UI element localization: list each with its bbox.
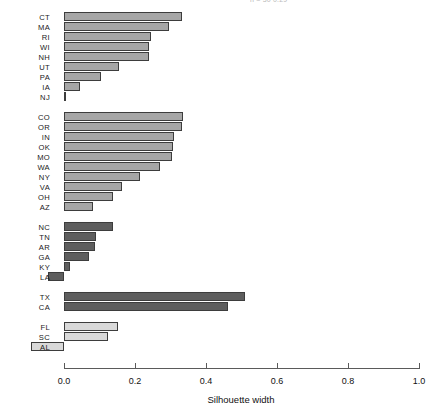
row-label-pa: PA xyxy=(0,73,50,82)
row-label-co: CO xyxy=(0,113,50,122)
row-label-or: OR xyxy=(0,123,50,132)
row-label-az: AZ xyxy=(0,203,50,212)
row-label-ri: RI xyxy=(0,33,50,42)
bar-wa xyxy=(64,162,160,171)
bar-ia xyxy=(64,82,80,91)
row-label-ky: KY xyxy=(0,263,50,272)
x-tick-0.4 xyxy=(206,363,207,369)
row-label-al: AL xyxy=(0,343,50,352)
bar-ky xyxy=(64,262,70,271)
bar-in xyxy=(64,132,174,141)
bar-ma xyxy=(64,22,169,31)
x-axis-title-text: Silhouette width xyxy=(155,394,274,405)
bar-co xyxy=(64,112,183,121)
bar-oh xyxy=(64,192,113,201)
bar-nj xyxy=(64,92,66,101)
row-label-in: IN xyxy=(0,133,50,142)
bar-ri xyxy=(64,32,151,41)
row-label-ny: NY xyxy=(0,173,50,182)
clipped-title: n = 30 0.29 xyxy=(250,0,430,5)
bar-ar xyxy=(64,242,95,251)
row-label-ok: OK xyxy=(0,143,50,152)
bar-fl xyxy=(64,322,118,331)
bar-ct xyxy=(64,12,182,21)
row-label-tn: TN xyxy=(0,233,50,242)
x-tick-0.2 xyxy=(135,363,136,369)
bar-az xyxy=(64,202,93,211)
row-label-ca: CA xyxy=(0,303,50,312)
row-label-la: LA xyxy=(0,273,50,282)
bar-pa xyxy=(64,72,101,81)
row-label-ct: CT xyxy=(0,13,50,22)
bar-ca xyxy=(64,302,228,311)
bar-wi xyxy=(64,42,149,51)
x-tick-0.8 xyxy=(348,363,349,369)
row-label-nh: NH xyxy=(0,53,50,62)
row-label-ga: GA xyxy=(0,253,50,262)
bar-va xyxy=(64,182,122,191)
row-label-sc: SC xyxy=(0,333,50,342)
bar-tn xyxy=(64,232,96,241)
row-label-nc: NC xyxy=(0,223,50,232)
x-tick-label-0.4: 0.4 xyxy=(186,376,226,386)
row-label-ma: MA xyxy=(0,23,50,32)
x-tick-0.6 xyxy=(277,363,278,369)
bar-mo xyxy=(64,152,172,161)
x-tick-0.0 xyxy=(64,363,65,369)
bar-ok xyxy=(64,142,173,151)
bar-nc xyxy=(64,222,113,231)
bar-ny xyxy=(64,172,140,181)
x-axis-line xyxy=(64,368,419,369)
row-label-va: VA xyxy=(0,183,50,192)
bar-nh xyxy=(64,52,149,61)
row-label-fl: FL xyxy=(0,323,50,332)
row-label-oh: OH xyxy=(0,193,50,202)
row-label-ia: IA xyxy=(0,83,50,92)
row-label-ut: UT xyxy=(0,63,50,72)
row-label-nj: NJ xyxy=(0,93,50,102)
x-axis-title: Silhouette width xyxy=(0,394,430,405)
bar-or xyxy=(64,122,182,131)
silhouette-plot: n = 30 0.29 CTMARIWINHUTPAIANJCOORINOKMO… xyxy=(0,0,430,412)
x-tick-label-1.0: 1.0 xyxy=(399,376,430,386)
x-tick-label-0.0: 0.0 xyxy=(44,376,84,386)
x-tick-label-0.2: 0.2 xyxy=(115,376,155,386)
bar-ut xyxy=(64,62,119,71)
x-tick-label-0.6: 0.6 xyxy=(257,376,297,386)
row-label-wi: WI xyxy=(0,43,50,52)
bar-sc xyxy=(64,332,108,341)
x-tick-1.0 xyxy=(419,363,420,369)
row-label-mo: MO xyxy=(0,153,50,162)
x-tick-label-0.8: 0.8 xyxy=(328,376,368,386)
row-label-ar: AR xyxy=(0,243,50,252)
row-label-wa: WA xyxy=(0,163,50,172)
row-label-tx: TX xyxy=(0,293,50,302)
bar-ga xyxy=(64,252,89,261)
bar-tx xyxy=(64,292,245,301)
bar-la xyxy=(48,272,64,281)
